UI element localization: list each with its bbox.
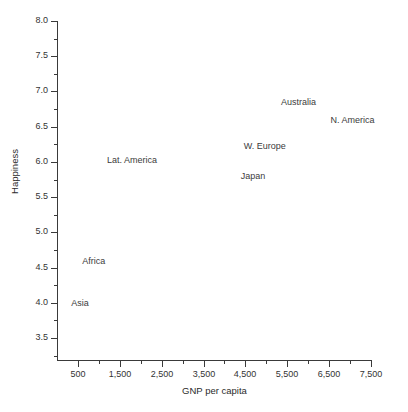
x-tick-label: 7,500: [360, 370, 383, 379]
y-tick-minor: [54, 109, 57, 110]
x-tick-label: 500: [70, 370, 85, 379]
y-tick-label: 7.5: [4, 51, 48, 60]
y-tick-label: 8.0: [4, 16, 48, 25]
data-point-label: Lat. America: [107, 156, 157, 165]
x-tick-label: 2,500: [151, 370, 174, 379]
x-tick-label: 1,500: [109, 370, 132, 379]
x-tick-major: [120, 361, 121, 367]
x-tick-major: [245, 361, 246, 367]
y-tick-major: [51, 127, 57, 128]
x-tick-minor: [183, 361, 184, 364]
y-tick-major: [51, 303, 57, 304]
y-tick-minor: [54, 74, 57, 75]
y-tick-label: 3.5: [4, 333, 48, 342]
y-tick-major: [51, 197, 57, 198]
y-tick-major: [51, 56, 57, 57]
y-tick-minor: [54, 250, 57, 251]
x-tick-minor: [141, 361, 142, 364]
y-axis-line: [57, 21, 58, 361]
data-point-label: Africa: [82, 256, 105, 265]
x-tick-major: [329, 361, 330, 367]
y-tick-minor: [54, 180, 57, 181]
x-tick-minor: [266, 361, 267, 364]
x-axis-line: [57, 360, 372, 361]
data-point-label: N. America: [331, 115, 375, 124]
y-tick-major: [51, 21, 57, 22]
y-tick-major: [51, 338, 57, 339]
y-tick-label: 4.0: [4, 298, 48, 307]
x-tick-major: [204, 361, 205, 367]
y-tick-minor: [54, 39, 57, 40]
x-tick-label: 3,500: [193, 370, 216, 379]
y-tick-minor: [54, 215, 57, 216]
x-tick-major: [78, 361, 79, 367]
y-tick-label: 6.5: [4, 122, 48, 131]
x-axis-title: GNP per capita: [57, 385, 372, 396]
y-tick-major: [51, 232, 57, 233]
y-tick-label: 5.0: [4, 227, 48, 236]
x-tick-minor: [350, 361, 351, 364]
x-tick-minor: [308, 361, 309, 364]
y-tick-label: 4.5: [4, 263, 48, 272]
data-point-label: W. Europe: [244, 141, 286, 150]
y-tick-minor: [54, 285, 57, 286]
scatter-chart: 3.54.04.55.05.56.06.57.07.58.0 5001,5002…: [0, 0, 408, 412]
y-tick-minor: [54, 356, 57, 357]
y-tick-minor: [54, 320, 57, 321]
x-tick-label: 6,500: [318, 370, 341, 379]
y-tick-label: 7.0: [4, 86, 48, 95]
x-tick-major: [287, 361, 288, 367]
data-point-label: Japan: [241, 171, 266, 180]
x-tick-minor: [224, 361, 225, 364]
x-tick-minor: [99, 361, 100, 364]
x-tick-label: 5,500: [276, 370, 299, 379]
y-tick-major: [51, 162, 57, 163]
data-point-label: Asia: [71, 298, 89, 307]
y-tick-minor: [54, 144, 57, 145]
y-axis-title: Happiness: [9, 132, 20, 212]
x-tick-major: [162, 361, 163, 367]
data-point-label: Australia: [281, 98, 316, 107]
y-tick-major: [51, 268, 57, 269]
x-tick-major: [371, 361, 372, 367]
x-tick-label: 4,500: [234, 370, 257, 379]
y-tick-major: [51, 91, 57, 92]
